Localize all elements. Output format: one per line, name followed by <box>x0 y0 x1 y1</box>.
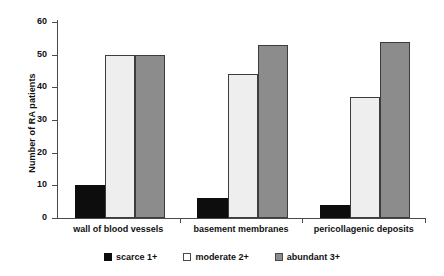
y-axis-tick-label: 20 <box>37 147 47 158</box>
y-axis-tick-label: 30 <box>37 114 47 125</box>
bar-abundant-group-2 <box>258 45 288 218</box>
bar-abundant-group-3 <box>380 42 410 218</box>
legend-label: scarce 1+ <box>116 252 157 262</box>
bar-scarce-group-1 <box>75 185 105 218</box>
legend-swatch-moderate-icon <box>183 253 191 261</box>
y-axis-tick-label: 0 <box>42 212 47 223</box>
legend-label: moderate 2+ <box>195 252 248 262</box>
bar-moderate-group-1 <box>105 55 135 218</box>
y-axis-tick-label: 40 <box>37 81 47 92</box>
x-axis-label: pericollagenic deposits <box>302 224 425 234</box>
bar-scarce-group-2 <box>197 198 227 218</box>
x-axis-separator <box>180 218 181 223</box>
x-axis-separator-end <box>425 218 426 223</box>
bar-chart: Number of RA patients 6050403020100 wall… <box>0 0 444 276</box>
legend-swatch-abundant-icon <box>275 253 283 261</box>
legend-label: abundant 3+ <box>287 252 340 262</box>
legend-swatch-scarce-icon <box>104 253 112 261</box>
bar-scarce-group-3 <box>320 205 350 218</box>
y-axis-tick-label: 50 <box>37 49 47 60</box>
legend-item-moderate[interactable]: moderate 2+ <box>183 252 248 262</box>
legend-item-scarce[interactable]: scarce 1+ <box>104 252 157 262</box>
y-axis-tick-label: 10 <box>37 179 47 190</box>
y-axis-title: Number of RA patients <box>27 33 37 213</box>
y-axis-tick-label: 60 <box>37 16 47 27</box>
bar-moderate-group-2 <box>228 74 258 218</box>
bar-abundant-group-1 <box>135 55 165 218</box>
y-axis-tick-mark <box>52 218 57 219</box>
x-axis-label: wall of blood vessels <box>57 224 180 234</box>
x-axis-separator <box>302 218 303 223</box>
chart-legend: scarce 1+moderate 2+abundant 3+ <box>0 252 444 262</box>
x-axis-label: basement membranes <box>180 224 303 234</box>
bar-moderate-group-3 <box>350 97 380 218</box>
legend-item-abundant[interactable]: abundant 3+ <box>275 252 340 262</box>
x-axis-line <box>57 218 426 219</box>
plot-area <box>57 22 425 218</box>
